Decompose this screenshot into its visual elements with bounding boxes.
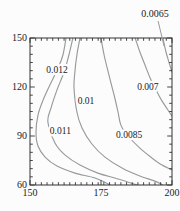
contour-label-0.012: 0.012 (46, 65, 68, 75)
contour-label-0.011: 0.011 (50, 126, 71, 136)
x-tick-label-175: 175 (94, 187, 109, 198)
y-tick-label-150: 150 (12, 32, 27, 43)
contour-label-0.007: 0.007 (137, 82, 159, 92)
contour-plot-figure: 0.0120.0120.0110.0110.010.010.00850.0085… (0, 0, 180, 211)
contour-label-0.0085: 0.0085 (116, 130, 142, 140)
y-tick-label-60: 60 (17, 179, 27, 190)
y-tick-label-90: 90 (17, 130, 27, 141)
contour-plot: 0.0120.0120.0110.0110.010.010.00850.0085… (0, 0, 180, 211)
callout-label-0.0065: 0.0065 (141, 8, 169, 19)
y-tick-label-120: 120 (12, 81, 27, 92)
x-tick-label-200: 200 (165, 187, 180, 198)
contour-label-0.01: 0.01 (78, 96, 95, 106)
